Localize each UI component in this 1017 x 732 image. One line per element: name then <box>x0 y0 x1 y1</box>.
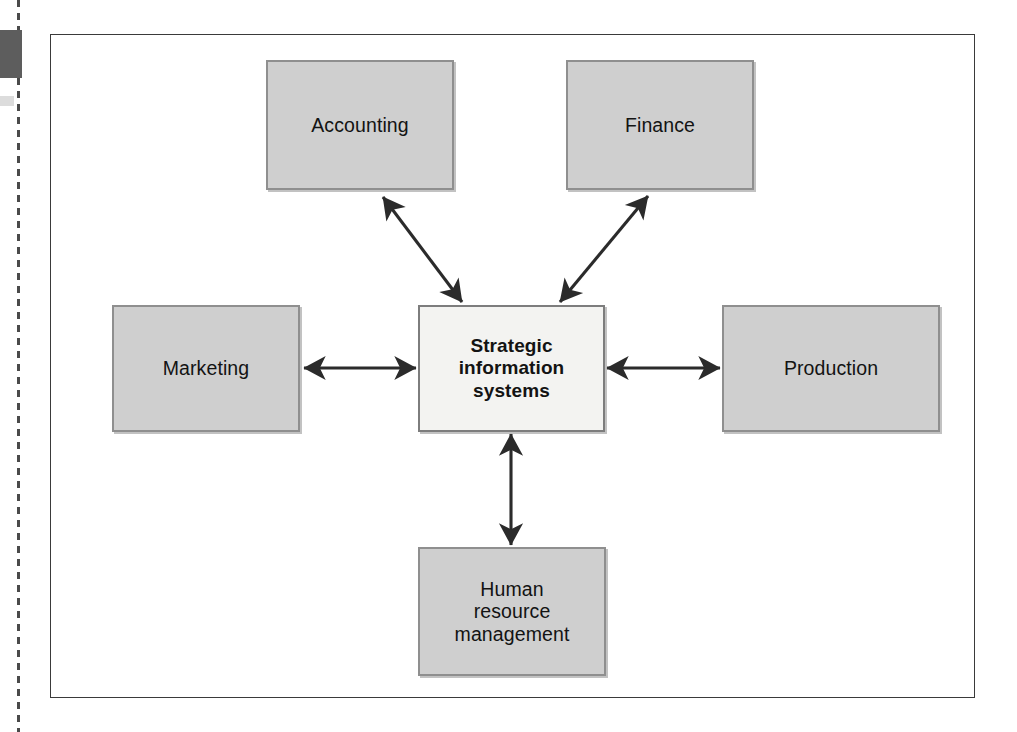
node-finance: Finance <box>566 60 754 190</box>
node-production-label: Production <box>784 357 878 380</box>
node-human-resource-management-label: Humanresourcemanagement <box>455 578 570 646</box>
scan-dark-block-artifact <box>0 30 22 78</box>
figure-page: Accounting Finance Marketing Strategicin… <box>0 0 1017 732</box>
node-strategic-information-systems-label: Strategicinformationsystems <box>459 335 565 401</box>
node-finance-label: Finance <box>625 114 695 137</box>
node-production: Production <box>722 305 940 432</box>
node-marketing: Marketing <box>112 305 300 432</box>
node-accounting-label: Accounting <box>311 114 408 137</box>
node-strategic-information-systems: Strategicinformationsystems <box>418 305 605 432</box>
node-accounting: Accounting <box>266 60 454 190</box>
node-human-resource-management: Humanresourcemanagement <box>418 547 606 676</box>
node-marketing-label: Marketing <box>163 357 250 380</box>
scan-dashed-rule <box>17 0 20 732</box>
scan-smudge-artifact <box>0 96 14 106</box>
